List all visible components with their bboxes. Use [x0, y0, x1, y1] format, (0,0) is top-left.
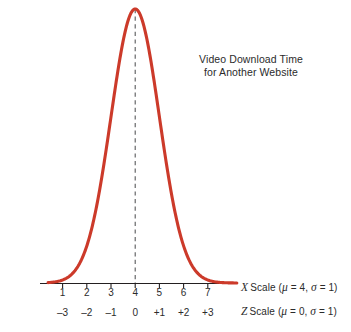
z-tick-label: +2 — [178, 306, 189, 320]
x-scale-caption: XScale (μ = 4, σ = 1) — [241, 281, 338, 294]
x-scale-word: Scale — [250, 282, 276, 293]
x-scale-variable: X — [241, 281, 250, 293]
chart-title-line-2: for Another Website — [186, 66, 316, 79]
x-tick-label: 7 — [205, 286, 211, 300]
x-tick-label: 2 — [84, 286, 90, 300]
z-scale-sigma-value: = 1) — [316, 306, 337, 317]
z-tick-label: 0 — [132, 306, 138, 320]
chart-title-line-1: Video Download Time — [186, 53, 316, 66]
x-tick-label: 6 — [181, 286, 187, 300]
x-tick-label: 5 — [157, 286, 163, 300]
normal-curve — [48, 9, 237, 283]
z-tick-label: –3 — [57, 306, 68, 320]
z-scale-word: Scale — [250, 306, 276, 317]
z-tick-label: +3 — [202, 306, 213, 320]
z-scale-variable: Z — [241, 305, 250, 317]
z-scale-mu-value: = 0, — [287, 306, 310, 317]
z-tick-label: +1 — [154, 306, 165, 320]
z-tick-label: –2 — [81, 306, 92, 320]
z-scale-caption: ZScale (μ = 0, σ = 1) — [241, 305, 337, 318]
chart-title: Video Download Time for Another Website — [186, 53, 316, 78]
x-scale-mu-value: = 4, — [288, 282, 311, 293]
x-tick-label: 4 — [132, 286, 138, 300]
x-tick-label: 3 — [108, 286, 114, 300]
x-scale-sigma-value: = 1) — [317, 282, 338, 293]
z-tick-label: –1 — [105, 306, 116, 320]
normal-distribution-figure: Video Download Time for Another Website … — [0, 0, 351, 332]
x-tick-label: 1 — [60, 286, 66, 300]
